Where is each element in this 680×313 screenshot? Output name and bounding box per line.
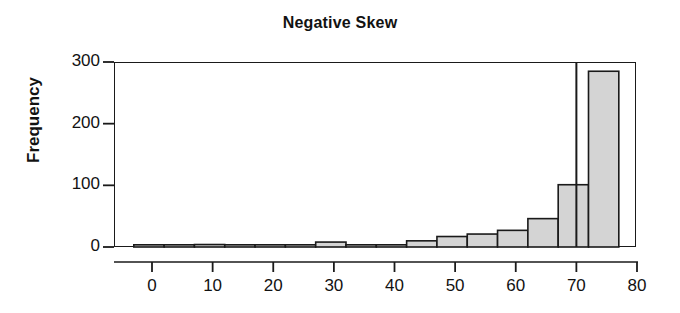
- histogram-bar: [558, 185, 588, 247]
- histogram-bar: [498, 230, 528, 247]
- x-tick-label: 70: [556, 276, 596, 296]
- histogram-bar: [164, 245, 194, 247]
- histogram-bar: [225, 245, 255, 247]
- y-tick-label: 200: [44, 113, 100, 133]
- histogram-bar: [589, 71, 619, 247]
- histogram-bar: [346, 245, 376, 247]
- y-tick-label: 300: [44, 51, 100, 71]
- x-axis-ticks: [114, 262, 638, 272]
- histogram-bar: [316, 242, 346, 247]
- histogram-bar: [194, 245, 224, 247]
- x-tick-label: 50: [435, 276, 475, 296]
- histogram-bar: [437, 237, 467, 247]
- histogram-bar: [528, 219, 558, 247]
- x-tick-label: 10: [193, 276, 233, 296]
- x-tick-label: 80: [617, 276, 657, 296]
- x-tick-label: 30: [314, 276, 354, 296]
- plot-canvas: [0, 0, 680, 313]
- histogram-bar: [285, 245, 315, 247]
- x-tick-label: 0: [132, 276, 172, 296]
- histogram-bar: [255, 245, 285, 247]
- histogram-bar: [376, 245, 406, 247]
- histogram-figure: Negative Skew Frequency 0100200300 01020…: [0, 0, 680, 313]
- histogram-bar: [407, 241, 437, 247]
- bars-group: [134, 71, 619, 247]
- y-tick-label: 0: [44, 236, 100, 256]
- histogram-bar: [467, 234, 497, 247]
- x-tick-label: 40: [375, 276, 415, 296]
- y-axis-ticks: [103, 62, 114, 247]
- x-tick-label: 60: [496, 276, 536, 296]
- histogram-bar: [134, 245, 164, 247]
- y-tick-label: 100: [44, 174, 100, 194]
- x-tick-label: 20: [253, 276, 293, 296]
